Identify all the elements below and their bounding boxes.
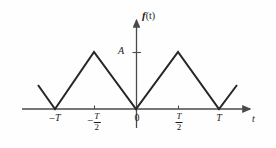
fraction-minus-half-period: T2 [93,112,100,133]
fraction-numerator: T [93,112,100,121]
amplitude-label: A [118,46,124,56]
fraction-denominator: 2 [175,123,182,132]
tick-label-minus-period: –T [49,113,60,124]
plot-canvas [0,0,276,148]
tick-label-origin: 0 [135,113,140,123]
tick-label-half-period: T2 [175,111,182,132]
tick-label-minus-half-period: –T2 [88,111,101,132]
minus-sign-minus-period: – [49,113,54,123]
tick-label-period: T [216,113,222,123]
fraction-numerator: T [175,112,182,121]
tick-label-minus-period-text: T [55,112,61,123]
x-axis-label: t [252,114,255,124]
tick-label-origin-text: 0 [135,112,140,123]
fraction-denominator: 2 [93,123,100,132]
minus-sign-minus-half-period: – [88,115,93,125]
fraction-half-period: T2 [175,112,182,133]
y-axis-label: f(t) [142,10,155,21]
tick-label-period-text: T [216,112,222,123]
y-axis-label-arg: (t) [146,10,155,21]
triangular-wave-curve [38,52,237,109]
triangular-wave-figure: f(t) A t –T –T2 0 T2 T [0,0,276,148]
